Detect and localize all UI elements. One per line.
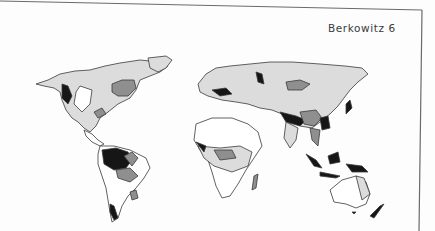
running-header: Berkowitz 6 [328,22,396,34]
document-page: Berkowitz 6 [0,0,435,231]
world-map-figure [0,50,435,231]
north-america [36,60,168,132]
